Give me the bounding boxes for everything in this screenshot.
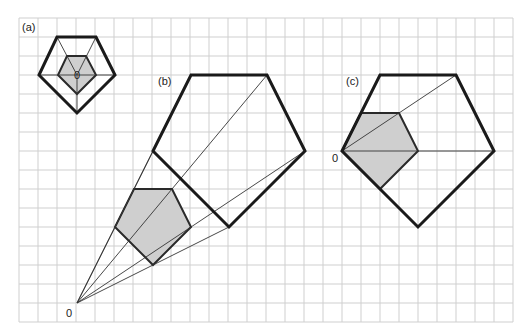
object-pentagon <box>115 189 191 265</box>
enlargement-diagram: (a)0(b)0(c)0 <box>0 0 527 336</box>
panel-label: (c) <box>346 75 359 87</box>
centre-label: 0 <box>74 69 80 81</box>
panel-c: (c)0 <box>332 75 494 227</box>
panel-label: (a) <box>22 21 35 33</box>
panel-label: (b) <box>158 75 171 87</box>
centre-label: 0 <box>66 307 72 319</box>
panel-b: (b)0 <box>66 75 305 319</box>
panel-a: (a)0 <box>22 21 115 113</box>
grid <box>19 18 513 322</box>
centre-label: 0 <box>332 152 338 164</box>
